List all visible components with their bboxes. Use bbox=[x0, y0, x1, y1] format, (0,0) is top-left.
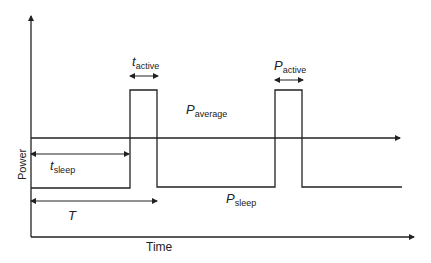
x-axis-label: Time bbox=[146, 240, 172, 254]
p-active-label: Pactive bbox=[274, 58, 306, 75]
p-sleep-label: Psleep bbox=[226, 191, 256, 208]
p-average-label: Paverage bbox=[186, 102, 227, 119]
t-sleep-label: tsleep bbox=[50, 158, 75, 175]
period-label: T bbox=[68, 208, 76, 223]
t-active-label: tactive bbox=[132, 54, 159, 71]
power-diagram bbox=[0, 0, 431, 263]
y-axis-label: Power bbox=[16, 149, 28, 180]
